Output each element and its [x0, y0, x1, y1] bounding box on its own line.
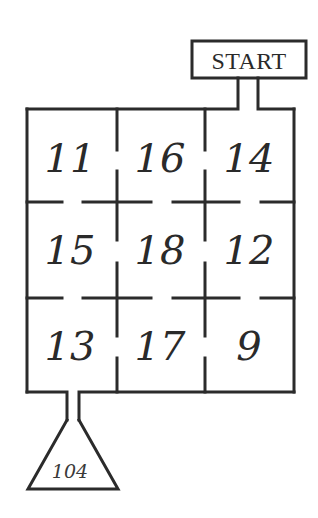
cell-r3c3[interactable]: 9 — [236, 323, 261, 369]
maze-puzzle: START 11 16 — [0, 0, 318, 518]
start-label: START — [211, 48, 286, 74]
cell-r1c1[interactable]: 11 — [45, 135, 96, 181]
cell-r1c2[interactable]: 16 — [135, 135, 186, 181]
cell-r3c1[interactable]: 13 — [45, 323, 96, 369]
grid-cells: 11 16 14 15 18 12 13 17 9 — [45, 135, 275, 369]
goal-triangle[interactable]: 104 — [28, 420, 118, 489]
cell-r2c3[interactable]: 12 — [224, 227, 275, 273]
start-box[interactable]: START — [192, 41, 306, 78]
entry-channel — [27, 78, 294, 109]
goal-value: 104 — [52, 460, 88, 482]
cell-r1c3[interactable]: 14 — [224, 135, 275, 181]
cell-r2c1[interactable]: 15 — [45, 227, 96, 273]
cell-r2c2[interactable]: 18 — [135, 227, 186, 273]
cell-r3c2[interactable]: 17 — [135, 323, 186, 369]
